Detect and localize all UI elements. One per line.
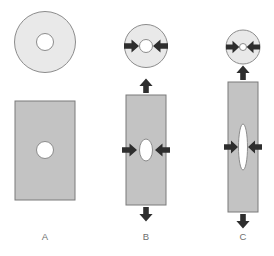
diagram-canvas: A B [0,0,274,256]
block-c-hole [239,124,248,170]
disc-a [15,12,76,73]
block-b-arrow-bottom-icon [139,207,152,222]
block-b-hole [140,139,153,161]
column-a: A [15,12,76,243]
column-label-c: C [240,231,247,242]
disc-c [226,30,260,64]
block-a-hole [37,142,54,159]
block-c [224,66,262,229]
block-c-arrow-top-icon [236,66,249,81]
block-b [122,79,170,222]
column-c: C [224,30,262,242]
disc-b-hole [140,40,153,53]
disc-c-hole [240,44,247,51]
column-b: B [122,25,170,243]
block-c-arrow-bottom-icon [236,214,249,229]
column-label-b: B [143,231,149,242]
disc-b [124,25,168,68]
block-a [15,101,75,200]
block-b-arrow-top-icon [139,79,152,94]
disc-a-hole [37,34,54,51]
column-label-a: A [42,231,49,242]
